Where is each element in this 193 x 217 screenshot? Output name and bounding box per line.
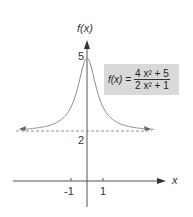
x-axis-label: x [172, 174, 178, 186]
plot-area [0, 0, 193, 217]
y-tick-label-2: 2 [78, 134, 84, 146]
right-arrow-icon [144, 126, 151, 131]
formula-box: f(x) = 4 x² + 5 2 x² + 1 [104, 64, 179, 95]
x-axis-arrow-icon [157, 178, 166, 184]
formula-fraction: 4 x² + 5 2 x² + 1 [134, 68, 170, 91]
x-tick-label-1: 1 [100, 185, 106, 197]
y-axis-label: f(x) [77, 22, 93, 34]
formula-lhs: f(x) = [108, 74, 131, 85]
y-tick-label-5: 5 [78, 50, 84, 62]
chart: f(x) 5 2 -1 1 x f(x) = 4 x² + 5 2 x² + 1 [0, 0, 193, 217]
x-tick-label-neg1: -1 [64, 185, 74, 197]
y-axis-arrow-icon [84, 40, 90, 49]
formula-denominator: 2 x² + 1 [135, 80, 169, 91]
formula-numerator: 4 x² + 5 [134, 68, 170, 80]
left-arrow-icon [19, 126, 26, 131]
